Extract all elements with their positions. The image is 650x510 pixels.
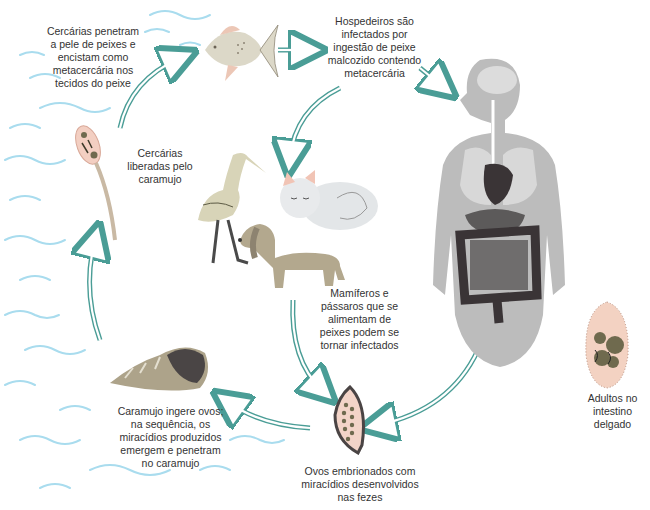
- stage-label-fish: Cercárias penetram a pele de peixes e en…: [38, 25, 148, 90]
- arrow-eggs-to-snail: [228, 402, 310, 428]
- adult-fluke-illustration: [580, 300, 635, 390]
- egg-illustration: [330, 385, 370, 455]
- stage-label-snail: Caramujo ingere ovos; na sequência, os m…: [108, 405, 233, 470]
- dog-illustration: [235, 218, 355, 293]
- snail-illustration: [105, 333, 215, 403]
- stage-label-adults: Adultos no intestino delgado: [580, 392, 645, 431]
- stage-label-animals: Mamíferos e pássaros que se alimentam de…: [307, 287, 412, 352]
- stage-label-hosts: Hospedeiros são infectados por ingestão …: [312, 15, 437, 80]
- stage-label-cercariae: Cercárias liberadas pelo caramujo: [115, 147, 205, 186]
- arrow-hosts-to-animals: [290, 88, 340, 158]
- fish-illustration: [200, 15, 280, 85]
- stage-label-eggs: Ovos embrionados com miracídios desenvol…: [290, 465, 430, 504]
- human-body-illustration: [425, 55, 575, 375]
